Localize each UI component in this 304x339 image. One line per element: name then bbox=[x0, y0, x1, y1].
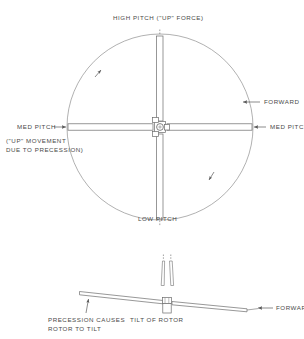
blade-right bbox=[167, 124, 252, 130]
label-low-pitch: LOW PITCH bbox=[138, 215, 177, 224]
label-med-pitch-left: MED PITCH bbox=[17, 123, 56, 132]
leader-precession-icon bbox=[86, 299, 89, 313]
forward-leader-line bbox=[247, 309, 258, 310]
side-view-hub-mast bbox=[163, 298, 172, 314]
label-up-movement-line1: ("UP" MOVEMENT bbox=[6, 137, 66, 146]
blade-bottom bbox=[157, 134, 163, 226]
label-forward-lower: FORWARD bbox=[276, 304, 304, 313]
label-forward-top: FORWARD bbox=[264, 98, 299, 107]
label-up-movement-line2: DUE TO PRECESSION) bbox=[6, 146, 83, 155]
label-precession-line1: PRECESSION CAUSES bbox=[48, 316, 125, 325]
label-precession-line2: ROTOR TO TILT bbox=[48, 325, 101, 334]
blade-top bbox=[157, 30, 163, 122]
label-tilt-of-rotor: TILT OF ROTOR bbox=[130, 316, 184, 325]
label-med-pitch-right: MED PITCH bbox=[270, 123, 304, 132]
rotation-arrow-upper-left-icon bbox=[95, 70, 101, 77]
edge-on-blade bbox=[161, 255, 173, 286]
top-view-group bbox=[54, 30, 266, 226]
rotation-arrow-lower-right-icon bbox=[209, 172, 214, 180]
diagram-canvas bbox=[0, 0, 304, 339]
rotor-precession-diagram: HIGH PITCH ("UP" FORCE) LOW PITCH MED PI… bbox=[0, 0, 304, 339]
side-view-group bbox=[80, 255, 274, 314]
blade-left bbox=[68, 124, 153, 130]
label-high-pitch: HIGH PITCH ("UP" FORCE) bbox=[113, 14, 204, 23]
